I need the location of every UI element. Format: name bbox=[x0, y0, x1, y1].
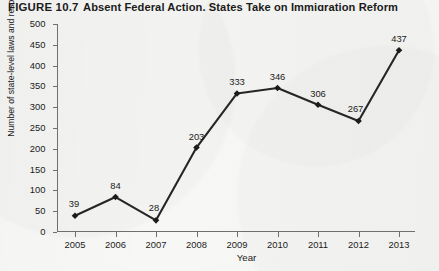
x-axis-title: Year bbox=[0, 252, 439, 263]
y-axis-tick: 0 bbox=[53, 232, 58, 233]
y-axis-tick-label: 400 bbox=[30, 60, 46, 71]
x-axis-tick: 2010 bbox=[278, 232, 279, 237]
y-axis-tick-label: 300 bbox=[30, 101, 46, 112]
data-point-value-label: 28 bbox=[149, 202, 159, 213]
x-axis-tick: 2007 bbox=[156, 232, 157, 237]
x-axis-tick-label: 2010 bbox=[267, 239, 288, 250]
x-axis-tick: 2013 bbox=[399, 232, 400, 237]
data-point-marker bbox=[315, 101, 322, 108]
x-axis-tick: 2006 bbox=[116, 232, 117, 237]
x-axis-tick-label: 2005 bbox=[65, 239, 86, 250]
data-point-value-label: 39 bbox=[69, 198, 79, 209]
x-axis-tick-label: 2013 bbox=[389, 239, 410, 250]
x-axis-tick-label: 2006 bbox=[105, 239, 126, 250]
x-axis-tick-label: 2011 bbox=[308, 239, 328, 250]
data-point-value-label: 84 bbox=[110, 180, 120, 191]
data-point-value-label: 267 bbox=[348, 103, 364, 114]
y-axis-tick-label: 0 bbox=[40, 226, 45, 237]
x-axis-tick-label: 2009 bbox=[227, 239, 248, 250]
x-axis-tick: 2009 bbox=[237, 232, 238, 237]
y-axis-title: Number of state-level laws and resolutio… bbox=[0, 0, 24, 145]
y-axis-tick-label: 350 bbox=[30, 80, 46, 91]
x-axis-tick: 2008 bbox=[197, 232, 198, 237]
plot-area: 050100150200250300350400450500 200520062… bbox=[57, 24, 415, 232]
data-point-value-label: 203 bbox=[189, 131, 205, 142]
data-point-marker bbox=[274, 85, 281, 92]
x-axis-tick: 2012 bbox=[359, 232, 360, 237]
page-title: Absent Federal Action, States Take on Im… bbox=[83, 1, 398, 11]
data-series-line bbox=[57, 24, 415, 232]
x-axis-title-label: Year bbox=[237, 252, 256, 263]
y-axis-tick-label: 450 bbox=[30, 39, 46, 50]
data-point-value-label: 333 bbox=[229, 76, 245, 87]
data-point-marker bbox=[72, 212, 79, 219]
x-axis-tick-label: 2008 bbox=[186, 239, 207, 250]
data-point-value-label: 437 bbox=[391, 33, 407, 44]
y-axis-tick-label: 200 bbox=[30, 143, 46, 154]
figure-container: FIGURE 10.7 Absent Federal Action, State… bbox=[0, 0, 439, 271]
x-axis-tick: 2005 bbox=[75, 232, 76, 237]
data-point-value-label: 306 bbox=[310, 88, 326, 99]
x-axis-tick: 2011 bbox=[318, 232, 319, 237]
x-axis-tick-label: 2007 bbox=[146, 239, 167, 250]
y-axis-tick-label: 150 bbox=[30, 164, 46, 175]
y-axis-title-label: Number of state-level laws and resolutio… bbox=[6, 0, 17, 142]
y-axis-tick-label: 100 bbox=[30, 184, 46, 195]
y-axis-tick-label: 250 bbox=[30, 122, 46, 133]
y-axis-tick-label: 500 bbox=[30, 18, 46, 29]
figure-title-bar: FIGURE 10.7 Absent Federal Action, State… bbox=[8, 0, 436, 11]
data-point-value-label: 346 bbox=[270, 71, 286, 82]
y-axis-tick-label: 50 bbox=[35, 205, 45, 216]
x-axis-tick-label: 2012 bbox=[348, 239, 369, 250]
